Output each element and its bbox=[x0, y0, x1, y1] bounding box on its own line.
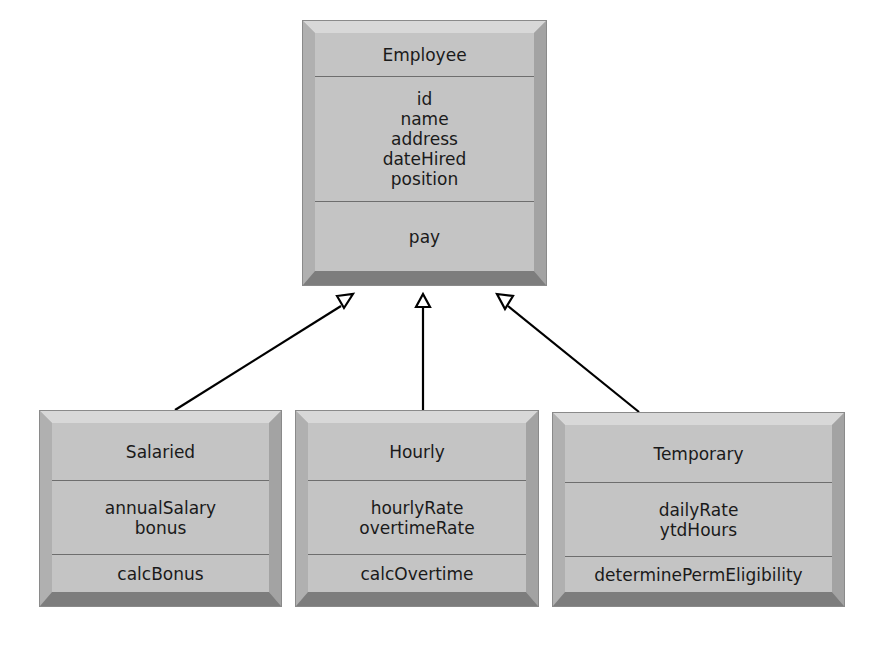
bevel-left bbox=[40, 411, 52, 606]
bevel-bottom bbox=[303, 271, 546, 285]
operations-section: pay bbox=[315, 201, 534, 271]
attribute: position bbox=[391, 169, 458, 189]
class-box-hourly[interactable]: Hourly hourlyRate overtimeRate calcOvert… bbox=[295, 410, 539, 607]
bevel-left bbox=[296, 411, 308, 606]
bevel-bottom bbox=[296, 592, 538, 606]
attribute: name bbox=[400, 109, 448, 129]
bevel-top bbox=[296, 411, 538, 423]
bevel-right bbox=[269, 411, 281, 606]
operation: pay bbox=[409, 227, 440, 247]
attribute: ytdHours bbox=[660, 520, 737, 540]
attributes-section: dailyRate ytdHours bbox=[565, 482, 832, 556]
attribute: hourlyRate bbox=[371, 498, 464, 518]
class-box-employee[interactable]: Employee id name address dateHired posit… bbox=[302, 20, 547, 286]
bevel-right bbox=[534, 21, 546, 285]
bevel-bottom bbox=[553, 592, 844, 606]
hollow-triangle-arrowhead-icon bbox=[416, 294, 430, 307]
attribute: id bbox=[417, 89, 433, 109]
attribute: address bbox=[391, 129, 458, 149]
bevel-right bbox=[526, 411, 538, 606]
uml-diagram-canvas: Employee id name address dateHired posit… bbox=[0, 0, 886, 647]
operation: determinePermEligibility bbox=[594, 565, 802, 585]
operations-section: calcBonus bbox=[52, 554, 269, 592]
bevel-bottom bbox=[40, 592, 281, 606]
bevel-top bbox=[40, 411, 281, 423]
attributes-section: annualSalary bonus bbox=[52, 480, 269, 554]
class-face: Employee id name address dateHired posit… bbox=[315, 33, 534, 271]
class-name: Temporary bbox=[653, 444, 743, 464]
attributes-section: id name address dateHired position bbox=[315, 76, 534, 201]
generalization-salaried-to-employee bbox=[175, 294, 353, 410]
bevel-left bbox=[553, 413, 565, 606]
bevel-left bbox=[303, 21, 315, 285]
class-name-section: Salaried bbox=[52, 423, 269, 480]
class-name: Hourly bbox=[389, 442, 445, 462]
operation: calcOvertime bbox=[360, 564, 473, 584]
class-face: Hourly hourlyRate overtimeRate calcOvert… bbox=[308, 423, 526, 592]
class-name-section: Temporary bbox=[565, 425, 832, 482]
attribute: dateHired bbox=[383, 149, 467, 169]
bevel-top bbox=[303, 21, 546, 33]
operations-section: calcOvertime bbox=[308, 554, 526, 592]
attribute: bonus bbox=[135, 518, 187, 538]
bevel-top bbox=[553, 413, 844, 425]
bevel-right bbox=[832, 413, 844, 606]
generalization-temporary-to-employee bbox=[497, 294, 639, 412]
class-box-temporary[interactable]: Temporary dailyRate ytdHours determinePe… bbox=[552, 412, 845, 607]
attribute: annualSalary bbox=[105, 498, 216, 518]
attribute: overtimeRate bbox=[359, 518, 474, 538]
class-name: Salaried bbox=[126, 442, 195, 462]
operation: calcBonus bbox=[117, 564, 203, 584]
generalization-hourly-to-employee bbox=[416, 294, 430, 410]
class-box-salaried[interactable]: Salaried annualSalary bonus calcBonus bbox=[39, 410, 282, 607]
operations-section: determinePermEligibility bbox=[565, 556, 832, 592]
class-face: Salaried annualSalary bonus calcBonus bbox=[52, 423, 269, 592]
attributes-section: hourlyRate overtimeRate bbox=[308, 480, 526, 554]
class-face: Temporary dailyRate ytdHours determinePe… bbox=[565, 425, 832, 592]
attribute: dailyRate bbox=[659, 500, 739, 520]
class-name-section: Employee bbox=[315, 33, 534, 76]
class-name-section: Hourly bbox=[308, 423, 526, 480]
class-name: Employee bbox=[382, 45, 466, 65]
hollow-triangle-arrowhead-icon bbox=[497, 294, 513, 309]
hollow-triangle-arrowhead-icon bbox=[337, 294, 353, 308]
